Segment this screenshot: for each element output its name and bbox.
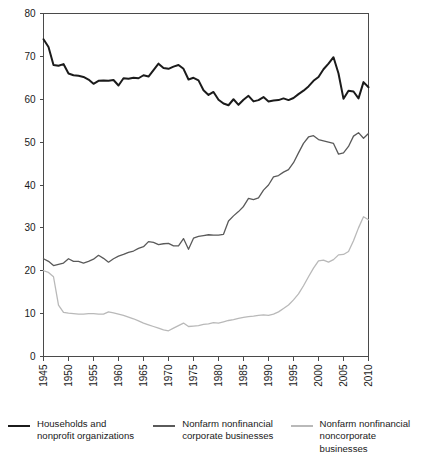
y-axis-tick-label: 40 <box>24 180 36 191</box>
x-axis-tick-label: 1970 <box>163 364 174 387</box>
legend-item-noncorporate: Nonfarm nonfinancial noncorporate busine… <box>291 418 424 455</box>
chart-legend: Households and nonprofit organizations N… <box>0 418 424 465</box>
y-axis-tick-label: 10 <box>24 308 36 319</box>
x-axis-tick-label: 1975 <box>188 364 199 387</box>
legend-item-households: Households and nonprofit organizations <box>0 418 153 443</box>
plot-frame <box>44 14 369 357</box>
series-line-2 <box>44 217 369 331</box>
legend-label-households: Households and nonprofit organizations <box>37 418 134 443</box>
line-chart-svg: 0102030405060708019451950195519601965197… <box>0 0 424 420</box>
series-line-1 <box>44 133 369 266</box>
line-swatch-light-icon <box>291 425 313 427</box>
x-axis-tick-label: 1960 <box>113 364 124 387</box>
line-swatch-dark-icon <box>8 425 30 427</box>
y-axis-tick-label: 0 <box>30 351 36 362</box>
legend-item-corporate: Nonfarm nonfinancial corporate businesse… <box>153 418 290 443</box>
x-axis-tick-label: 1965 <box>138 364 149 387</box>
x-axis-tick-label: 1980 <box>213 364 224 387</box>
x-axis-tick-label: 2000 <box>313 364 324 387</box>
x-axis-tick-label: 2005 <box>338 364 349 387</box>
y-axis-tick-label: 50 <box>24 137 36 148</box>
y-axis-tick-label: 20 <box>24 265 36 276</box>
y-axis-tick-label: 70 <box>24 51 36 62</box>
x-axis-tick-label: 2010 <box>363 364 374 387</box>
x-axis-tick-label: 1955 <box>88 364 99 387</box>
x-axis-tick-label: 1985 <box>238 364 249 387</box>
y-axis-tick-label: 30 <box>24 222 36 233</box>
plot-area: 0102030405060708019451950195519601965197… <box>0 0 424 420</box>
x-axis-tick-label: 1990 <box>263 364 274 387</box>
legend-label-noncorporate: Nonfarm nonfinancial noncorporate busine… <box>320 418 424 455</box>
y-axis-tick-label: 60 <box>24 94 36 105</box>
x-axis-tick-label: 1950 <box>63 364 74 387</box>
x-axis-tick-label: 1945 <box>38 364 49 387</box>
x-axis-tick-label: 1995 <box>288 364 299 387</box>
chart-figure: 0102030405060708019451950195519601965197… <box>0 0 424 465</box>
series-line-0 <box>44 39 369 105</box>
legend-label-corporate: Nonfarm nonfinancial corporate businesse… <box>182 418 273 443</box>
line-swatch-gray-icon <box>153 425 175 427</box>
y-axis-tick-label: 80 <box>24 8 36 19</box>
